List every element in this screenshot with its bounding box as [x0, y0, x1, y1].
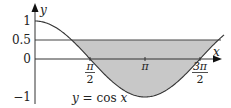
y-tick-label-1: 0.5 [12, 33, 31, 47]
svg-text:2: 2 [87, 73, 94, 86]
x-tick-1: π [140, 57, 149, 73]
x-tick-0: π2 [85, 57, 95, 86]
svg-text:π: π [140, 60, 149, 73]
y-tick-label-2: 0 [23, 52, 31, 66]
svg-text:3π: 3π [193, 60, 208, 73]
cosine-area-chart: π2π3π2 10.50−1 x y y = cos x [0, 0, 231, 108]
x-axis-label: x [213, 45, 220, 59]
svg-text:2: 2 [197, 73, 204, 86]
y-axis-label: y [39, 3, 47, 17]
y-tick-label-0: 1 [23, 14, 31, 28]
function-label: y = cos x [71, 91, 127, 105]
svg-text:π: π [85, 60, 94, 73]
x-tick-2: 3π2 [192, 57, 208, 86]
y-tick-label-3: −1 [13, 90, 31, 104]
y-tick-labels: 10.50−1 [12, 14, 31, 104]
chart-canvas: π2π3π2 10.50−1 x y y = cos x [0, 0, 231, 108]
y-axis-arrow-icon [32, 3, 39, 12]
